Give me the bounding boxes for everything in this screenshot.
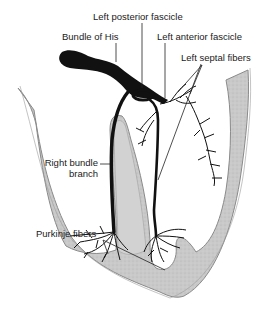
label-left-anterior-fascicle: Left anterior fascicle (157, 31, 242, 42)
heart-conduction-diagram: Left posterior fascicle Bundle of His Le… (0, 0, 267, 309)
label-left-septal-fibers: Left septal fibers (181, 52, 251, 63)
label-right-bundle-branch-line2: branch (38, 168, 98, 179)
leader-septal-3 (158, 64, 201, 180)
leader-septal-1 (178, 65, 202, 92)
diagram-artwork (0, 0, 267, 309)
label-purkinje-fibers: Purkinje fibers (36, 228, 96, 239)
label-bundle-of-his: Bundle of His (62, 31, 119, 42)
label-left-posterior-fascicle: Left posterior fascicle (93, 11, 183, 22)
left-septal-fibers (136, 112, 156, 146)
left-anterior-fascicle-fibers (160, 84, 222, 186)
label-right-bundle-branch-line1: Right bundle (38, 157, 98, 168)
